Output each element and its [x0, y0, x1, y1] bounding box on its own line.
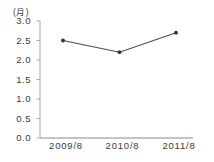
data-point — [174, 31, 178, 35]
y-tick-label: 1.5 — [16, 74, 31, 85]
plot-area: 0.00.51.01.52.02.53.02009/82010/82011/8 — [0, 0, 214, 162]
x-axis-label: 2010/8 — [106, 140, 140, 151]
y-tick-label: 2.0 — [16, 54, 31, 65]
x-axis-label: 2009/8 — [49, 140, 83, 151]
data-point — [118, 50, 122, 54]
y-tick-label: 2.5 — [16, 35, 31, 46]
y-tick-label: 0.0 — [16, 132, 31, 143]
y-tick-label: 3.0 — [16, 15, 31, 26]
y-tick-label: 0.5 — [16, 113, 31, 124]
data-line — [63, 33, 176, 53]
y-tick-label: 1.0 — [16, 93, 31, 104]
line-chart: (月) 0.00.51.01.52.02.53.02009/82010/8201… — [0, 0, 214, 162]
x-axis-label: 2011/8 — [162, 140, 195, 151]
data-point — [61, 39, 65, 43]
